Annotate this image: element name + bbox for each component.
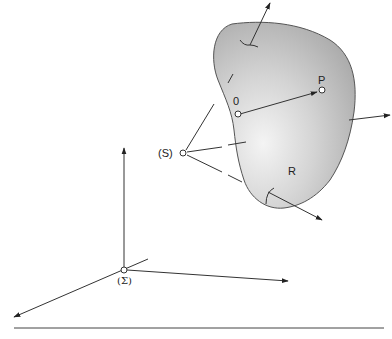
label-origin-body: 0 [233, 96, 239, 107]
sight-line-3 [187, 155, 222, 172]
label-observer-s: (S) [158, 148, 173, 159]
diagram-canvas [0, 0, 392, 339]
label-region-r: R [288, 166, 296, 177]
point-observer-s [180, 150, 186, 156]
point-frame-sigma [121, 267, 127, 273]
label-frame-sigma: (Σ) [117, 276, 132, 286]
normal-arrow-right [349, 115, 390, 120]
point-p [319, 87, 325, 93]
axis-horizontal [127, 270, 288, 281]
label-point-p: P [318, 75, 325, 86]
axis-depth [14, 259, 148, 317]
sight-line-1 [186, 104, 214, 150]
mechanics-diagram: 0 P (S) R (Σ) [0, 0, 392, 339]
point-origin-body [235, 111, 241, 117]
sight-line-3b [228, 175, 242, 182]
sight-line-2 [187, 147, 222, 152]
